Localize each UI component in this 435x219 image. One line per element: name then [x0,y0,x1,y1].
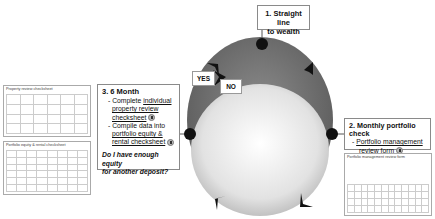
cd-icon[interactable] [148,114,155,121]
step-monthly-box: 2. Monthly portfolio check - Portfolio m… [344,118,431,150]
question-line2: for another deposit? [102,168,175,176]
arrow-top-right-icon [304,62,313,75]
step-title-line1: 1. Straight line [258,9,309,27]
link-portfolio-management[interactable]: Portfolio management [356,138,423,145]
step-straight-line-box: 1. Straight line to wealth [257,5,310,30]
step-six-month-box: 3. 6 Month - Complete individual propert… [97,84,180,170]
thumbnail-portfolio-equity: Portfolio equity & rental checksheet [3,141,91,195]
yes-label: YES [192,71,215,86]
thumbnail-title: Portfolio equity & rental checksheet [4,142,90,148]
no-label: NO [220,79,242,94]
link-individual-property-review[interactable]: individual [143,97,171,104]
six-month-heading: 3. 6 Month [102,88,175,96]
thumbnail-property-review: Property review checksheet [3,85,91,137]
step-title-line2: to wealth [258,27,309,36]
six-month-item1-prefix: - Complete [108,97,143,104]
link-individual-property-review-2[interactable]: property review [112,105,158,112]
cd-icon[interactable] [167,139,174,146]
arrow-bottom-right-icon [300,193,313,207]
six-month-item2-prefix: - Compile data into [108,122,165,129]
question-line1: Do I have enough equity [102,151,175,167]
link-portfolio-equity[interactable]: portfolio equity & [112,130,163,137]
thumbnail-portfolio-management: Portfolio management review form [344,153,432,216]
link-individual-property-review-3[interactable]: checksheet [112,114,146,121]
monthly-heading: 2. Monthly portfolio check [349,122,426,138]
link-portfolio-equity-2[interactable]: rental checksheet [112,138,165,145]
thumbnail-title: Property review checksheet [4,86,90,92]
arrow-bottom-left-icon [215,196,226,210]
thumbnail-title: Portfolio management review form [345,154,431,160]
